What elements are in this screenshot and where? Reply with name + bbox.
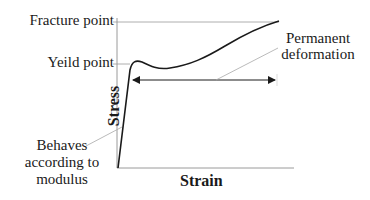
x-axis-title: Strain xyxy=(180,172,223,190)
permanent-deformation-leader xyxy=(216,48,278,80)
permanent-deformation-label: Permanent deformation xyxy=(272,30,364,62)
modulus-behavior-line-1: Behaves xyxy=(14,137,110,154)
modulus-behavior-line-3: modulus xyxy=(14,171,110,188)
stress-strain-diagram: Fracture point Yeild point Permanent def… xyxy=(0,0,370,200)
yield-point-label: Yeild point xyxy=(48,54,114,70)
permanent-deformation-line-2: deformation xyxy=(272,46,364,62)
y-axis-title: Stress xyxy=(105,76,123,136)
permanent-deformation-line-1: Permanent xyxy=(272,30,364,46)
fracture-point-label: Fracture point xyxy=(29,12,114,28)
modulus-behavior-label: Behaves according to modulus xyxy=(14,137,110,188)
stress-strain-curve xyxy=(118,21,279,168)
modulus-behavior-line-2: according to xyxy=(14,154,110,171)
